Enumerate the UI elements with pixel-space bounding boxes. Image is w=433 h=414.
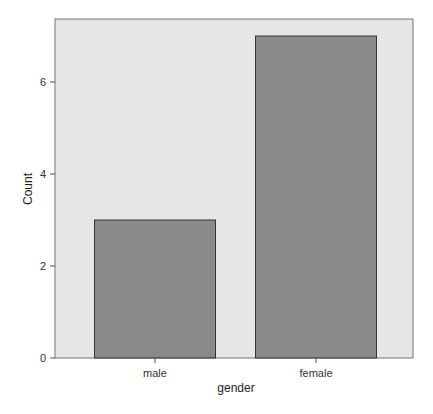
y-axis: 0246 <box>40 76 55 364</box>
y-tick-label: 6 <box>40 76 46 88</box>
x-axis-title: gender <box>217 381 254 395</box>
y-axis-title: Count <box>21 172 35 205</box>
y-tick-label: 2 <box>40 260 46 272</box>
x-tick-label: female <box>299 367 332 379</box>
bar-chart: 0246 malefemale Count gender <box>0 0 433 414</box>
bar-female <box>256 36 377 358</box>
x-axis: malefemale <box>143 358 332 379</box>
bar-male <box>95 220 216 358</box>
y-tick-label: 0 <box>40 352 46 364</box>
x-tick-label: male <box>143 367 167 379</box>
y-tick-label: 4 <box>40 168 46 180</box>
